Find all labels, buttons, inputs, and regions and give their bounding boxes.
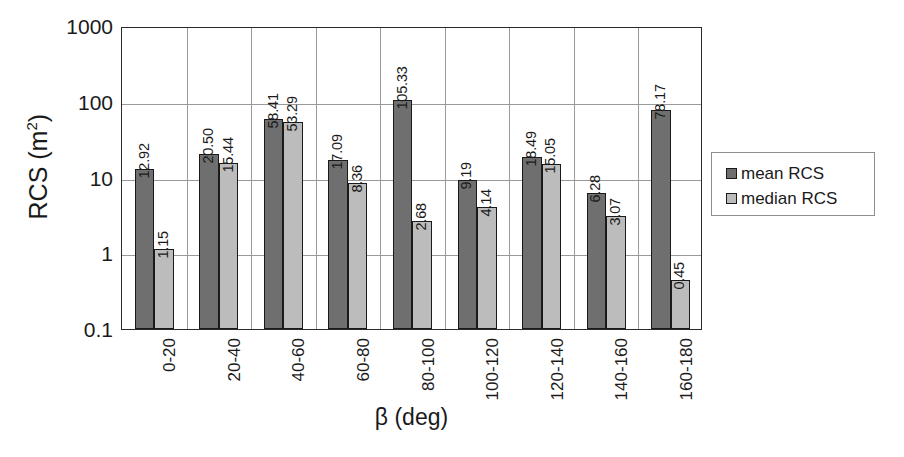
x-tick-label: 40-60	[290, 338, 307, 381]
bar-median-rcs[interactable]	[412, 221, 432, 329]
y-tick-label: 0.1	[84, 319, 113, 340]
y-tick-label: 1	[101, 243, 113, 264]
legend-label-median-rcs: median RCS	[741, 189, 837, 209]
bar-median-rcs[interactable]	[283, 122, 303, 329]
bar-value-label: 2.68	[414, 203, 429, 230]
bar-median-rcs[interactable]	[154, 249, 174, 329]
bar-group: 12.921.15	[122, 28, 187, 329]
legend-swatch-median-rcs	[726, 193, 737, 204]
bar-value-label: 1.15	[156, 231, 171, 258]
bar-median-rcs[interactable]	[348, 183, 368, 329]
y-tick-label: 100	[78, 92, 113, 113]
bar-value-label: 53.29	[285, 97, 300, 132]
bar-mean-rcs[interactable]	[651, 110, 671, 329]
bar-group: 18.4915.05	[509, 28, 574, 329]
x-tick-label: 160-180	[678, 338, 695, 400]
bar-mean-rcs[interactable]	[199, 154, 219, 329]
bar-mean-rcs[interactable]	[458, 180, 478, 329]
bar-mean-rcs[interactable]	[587, 193, 607, 329]
bar-median-rcs[interactable]	[477, 207, 497, 329]
bar-value-label: 17.09	[330, 134, 345, 169]
legend-label-mean-rcs: mean RCS	[741, 164, 824, 184]
bar-value-label: 78.17	[652, 84, 667, 119]
y-tick-label: 10	[90, 168, 113, 189]
bar-value-label: 58.41	[265, 94, 280, 129]
bar-median-rcs[interactable]	[606, 216, 626, 329]
chart-legend: mean RCS median RCS	[711, 152, 875, 216]
legend-item-mean-rcs[interactable]: mean RCS	[726, 162, 874, 185]
bar-value-label: 18.49	[523, 131, 538, 166]
bar-value-label: 4.14	[478, 189, 493, 216]
plot-area: 12.921.1520.5015.4458.4153.2917.098.3610…	[121, 27, 702, 330]
y-axis-title: RCS (m2)	[23, 67, 52, 267]
bar-group: 78.170.45	[638, 28, 703, 329]
bar-mean-rcs[interactable]	[328, 160, 348, 329]
y-axis-title-superscript: 2	[23, 122, 40, 130]
bar-value-label: 9.19	[459, 162, 474, 189]
rcs-bar-chart: 10001001010.1 RCS (m2) 12.921.1520.5015.…	[0, 0, 904, 457]
x-tick-label: 60-80	[355, 338, 372, 381]
y-axis-ticks: 10001001010.1	[0, 0, 113, 457]
bar-mean-rcs[interactable]	[264, 119, 284, 329]
bar-group: 17.098.36	[316, 28, 381, 329]
y-tick-label: 1000	[66, 16, 113, 37]
y-axis-title-close: )	[24, 114, 52, 122]
bar-group: 20.5015.44	[187, 28, 252, 329]
bar-value-label: 20.50	[201, 128, 216, 163]
bar-value-label: 6.28	[588, 175, 603, 202]
x-axis-title: β (deg)	[121, 404, 702, 431]
bar-value-label: 15.05	[543, 138, 558, 173]
bar-value-label: 105.33	[394, 66, 409, 109]
bar-value-label: 12.92	[136, 143, 151, 178]
bar-group: 9.194.14	[445, 28, 510, 329]
legend-swatch-mean-rcs	[726, 168, 737, 179]
x-tick-label: 100-120	[484, 338, 501, 400]
bar-mean-rcs[interactable]	[135, 169, 155, 329]
bar-value-label: 3.07	[607, 198, 622, 225]
bar-value-label: 15.44	[220, 137, 235, 172]
x-tick-label: 20-40	[226, 338, 243, 381]
x-tick-label: 120-140	[549, 338, 566, 400]
bar-mean-rcs[interactable]	[522, 157, 542, 329]
bar-median-rcs[interactable]	[542, 164, 562, 329]
bar-mean-rcs[interactable]	[393, 100, 413, 329]
y-axis-title-base: RCS (m	[24, 131, 52, 220]
bar-group: 105.332.68	[380, 28, 445, 329]
legend-item-median-rcs[interactable]: median RCS	[726, 187, 874, 210]
bar-median-rcs[interactable]	[219, 163, 239, 329]
bar-group: 58.4153.29	[251, 28, 316, 329]
x-tick-label: 0-20	[161, 338, 178, 372]
bar-value-label: 8.36	[349, 165, 364, 192]
x-tick-label: 140-160	[613, 338, 630, 400]
x-tick-label: 80-100	[420, 338, 437, 391]
bar-group: 6.283.07	[574, 28, 639, 329]
bar-value-label: 0.45	[672, 262, 687, 289]
